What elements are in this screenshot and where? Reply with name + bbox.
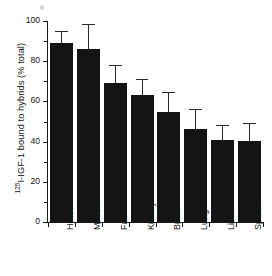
error-bar-cap: [82, 24, 95, 25]
x-tick: [75, 222, 76, 227]
bar-group[interactable]: [50, 21, 73, 222]
bar[interactable]: [77, 49, 100, 222]
y-tick-label: 20: [14, 177, 40, 186]
x-axis-label-kidney: Kidney: [146, 202, 156, 230]
x-axis-label-heart: Heart: [65, 207, 75, 230]
error-bar-stem: [168, 93, 169, 112]
x-tick: [236, 222, 237, 227]
error-bar-stem: [249, 124, 250, 141]
y-axis-title: 125I-IGF-1 bound to hybrids (% total): [14, 18, 26, 218]
error-bar-cap: [109, 65, 122, 66]
error-bar-stem: [222, 126, 223, 140]
error-bar-cap: [162, 92, 175, 93]
bar[interactable]: [157, 112, 180, 222]
x-tick: [48, 222, 49, 227]
y-tick-label: 80: [14, 56, 40, 65]
bar-group[interactable]: [211, 21, 234, 222]
x-tick: [263, 222, 264, 227]
y-tick-label: 40: [14, 137, 40, 146]
bar[interactable]: [184, 129, 207, 222]
plot-area: [48, 21, 263, 222]
bar-group[interactable]: [157, 21, 180, 222]
error-bar-cap: [55, 31, 68, 32]
error-bar-stem: [88, 25, 89, 49]
error-bar-cap: [136, 79, 149, 80]
bar-group[interactable]: [104, 21, 127, 222]
y-tick-label: 100: [14, 16, 40, 25]
error-bar-stem: [142, 80, 143, 95]
bar-group[interactable]: [238, 21, 261, 222]
error-bar-stem: [115, 66, 116, 83]
bar-group[interactable]: [77, 21, 100, 222]
x-tick: [209, 222, 210, 227]
x-axis-label-brain: Brain: [172, 208, 182, 230]
error-bar-cap: [189, 109, 202, 110]
error-bar-stem: [195, 110, 196, 128]
error-bar-cap: [216, 125, 229, 126]
bar[interactable]: [104, 83, 127, 222]
error-bar-stem: [61, 32, 62, 43]
bar-group[interactable]: [131, 21, 154, 222]
x-axis-label-liver: Liver: [226, 210, 236, 230]
x-axis-label-lung: Lung: [199, 210, 209, 230]
x-axis-label-fat: Fat: [119, 217, 129, 230]
bar-group[interactable]: [184, 21, 207, 222]
scan-artifact-speck: [40, 5, 44, 10]
bar[interactable]: [50, 43, 73, 222]
x-axis-label-muscle: Muscle: [92, 201, 102, 230]
y-tick-label: 60: [14, 96, 40, 105]
x-tick: [182, 222, 183, 227]
x-axis-label-spleen: Spleen: [253, 201, 263, 230]
error-bar-cap: [243, 123, 256, 124]
y-tick-label: 0: [14, 217, 40, 226]
bar-chart: 125I-IGF-1 bound to hybrids (% total) 02…: [0, 0, 272, 276]
